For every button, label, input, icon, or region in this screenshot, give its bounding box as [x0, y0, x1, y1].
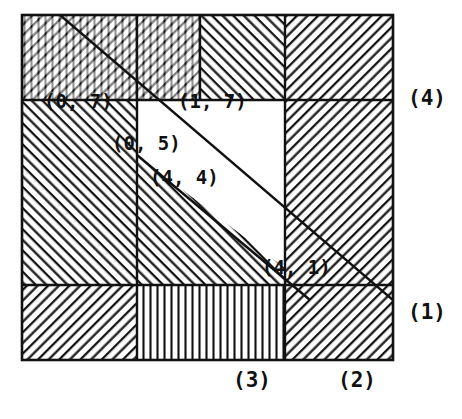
vertex-label-0-5: (0, 5) — [112, 134, 181, 153]
vertex-label-0-7: (0, 7) — [44, 92, 113, 111]
region-label-1: (1) — [408, 302, 446, 323]
region-label-3: (3) — [233, 370, 271, 391]
region-label-2: (2) — [338, 370, 376, 391]
region-label-4: (4) — [408, 88, 446, 109]
vertex-label-4-1: (4, 1) — [262, 258, 331, 277]
vertex-label-1-7: (1, 7) — [178, 92, 247, 111]
vertex-label-4-4: (4, 4) — [150, 168, 219, 187]
hatched-region-diagram — [0, 0, 462, 419]
